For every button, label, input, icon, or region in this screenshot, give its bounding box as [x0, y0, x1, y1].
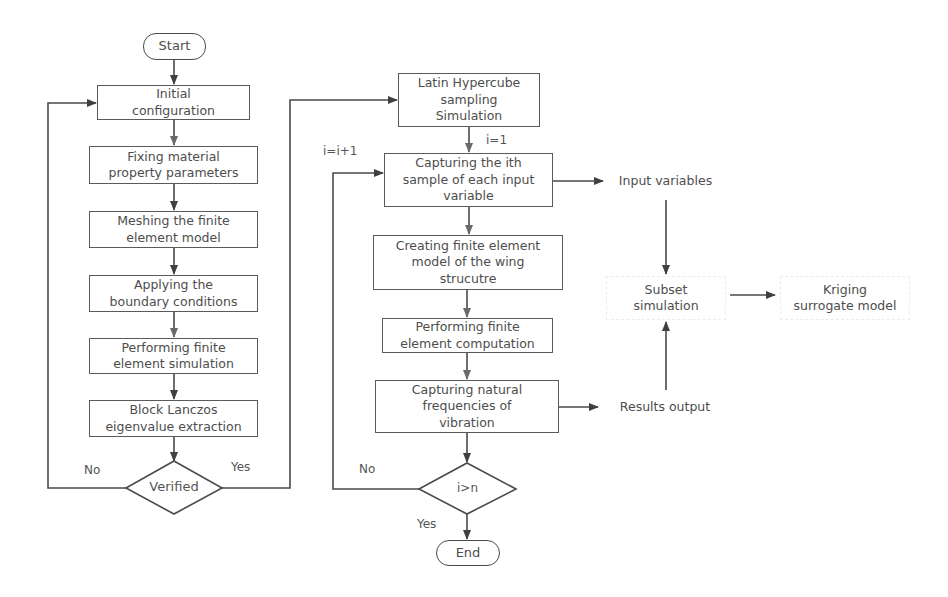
- lhs-sampling-box: Latin Hypercube sampling Simulation: [398, 73, 540, 127]
- step-label: Applying the boundary conditions: [110, 277, 238, 310]
- step-label: Creating finite element model of the win…: [396, 238, 541, 288]
- start-terminal: Start: [143, 33, 206, 60]
- verified-yes-label: Yes: [231, 460, 250, 474]
- subset-simulation-node: Subset simulation: [606, 276, 726, 320]
- boundary-conditions-box: Applying the boundary conditions: [89, 275, 258, 312]
- step-label: Block Lanczos eigenvalue extraction: [105, 402, 241, 435]
- init-counter-label: i=1: [486, 133, 507, 147]
- increment-counter-label: i=i+1: [323, 144, 357, 158]
- node-label: Kriging surrogate model: [794, 282, 897, 315]
- step-label: Fixing material property parameters: [109, 149, 239, 182]
- counter-no-label: No: [359, 462, 375, 476]
- fe-computation-box: Performing finite element computation: [382, 318, 553, 353]
- block-lanczos-box: Block Lanczos eigenvalue extraction: [89, 400, 258, 437]
- fe-simulation-box: Performing finite element simulation: [89, 338, 258, 374]
- node-label: Results output: [620, 399, 710, 416]
- decision-label: i>n: [457, 481, 478, 495]
- step-label: Capturing the ith sample of each input v…: [403, 155, 535, 205]
- verified-no-label: No: [84, 463, 100, 477]
- kriging-model-node: Kriging surrogate model: [780, 276, 910, 320]
- node-label: Input variables: [619, 173, 712, 190]
- end-label: End: [456, 545, 481, 562]
- step-label: Performing finite element computation: [400, 319, 535, 352]
- step-label: Initial configuration: [132, 86, 215, 119]
- step-label: Latin Hypercube sampling Simulation: [418, 75, 521, 125]
- node-label: Subset simulation: [633, 282, 698, 315]
- verified-decision: Verified: [126, 479, 222, 494]
- fixing-material-box: Fixing material property parameters: [89, 146, 258, 184]
- step-label: Performing finite element simulation: [113, 340, 234, 373]
- capture-frequencies-box: Capturing natural frequencies of vibrati…: [375, 380, 559, 433]
- end-terminal: End: [436, 540, 500, 566]
- capture-sample-box: Capturing the ith sample of each input v…: [384, 153, 553, 207]
- input-variables-node: Input variables: [608, 170, 723, 192]
- meshing-box: Meshing the finite element model: [89, 211, 258, 248]
- results-output-node: Results output: [606, 396, 724, 418]
- step-label: Meshing the finite element model: [117, 213, 230, 246]
- create-fe-model-box: Creating finite element model of the win…: [373, 235, 563, 290]
- decision-label: Verified: [149, 479, 198, 494]
- counter-yes-label: Yes: [417, 517, 436, 531]
- counter-decision: i>n: [419, 481, 516, 495]
- start-label: Start: [159, 38, 191, 55]
- initial-configuration-box: Initial configuration: [97, 85, 250, 120]
- step-label: Capturing natural frequencies of vibrati…: [412, 382, 522, 432]
